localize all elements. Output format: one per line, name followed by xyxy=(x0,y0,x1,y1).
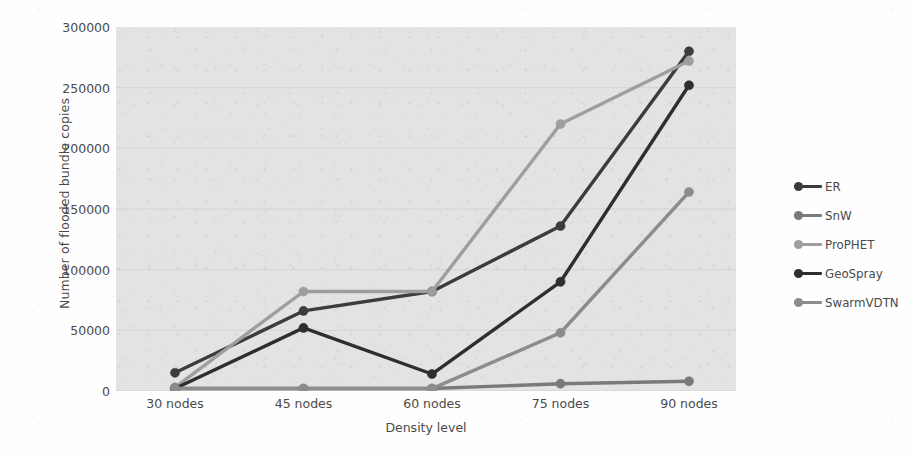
data-point xyxy=(170,384,179,391)
legend-label: GeoSpray xyxy=(825,267,883,281)
x-axis-tick-label: 30 nodes xyxy=(146,396,204,411)
x-axis-title: Density level xyxy=(116,420,736,435)
legend-marker-icon xyxy=(794,210,822,222)
data-point xyxy=(427,369,436,378)
legend-dot-icon xyxy=(794,240,803,249)
data-point xyxy=(556,328,565,337)
data-point xyxy=(556,379,565,388)
x-axis-tick-label: 45 nodes xyxy=(275,396,333,411)
series-line xyxy=(175,61,689,387)
legend-label: ER xyxy=(825,180,841,194)
data-point xyxy=(556,221,565,230)
data-point xyxy=(299,306,308,315)
x-axis-tick-labels: 30 nodes45 nodes60 nodes75 nodes90 nodes xyxy=(116,396,736,416)
x-axis-tick-label: 60 nodes xyxy=(403,396,461,411)
plot-svg xyxy=(116,27,736,391)
data-point xyxy=(299,384,308,391)
chart-legend: ERSnWProPHETGeoSpraySwarmVDTN xyxy=(794,172,910,317)
legend-dot-icon xyxy=(794,298,803,307)
series-line xyxy=(175,85,689,388)
plot-area xyxy=(116,27,736,391)
x-axis-tick-label: 90 nodes xyxy=(660,396,718,411)
legend-label: SnW xyxy=(825,209,852,223)
legend-entry-swarmvdtn[interactable]: SwarmVDTN xyxy=(794,288,910,317)
chart-page: Number of flooded bundle copies 05000010… xyxy=(0,0,912,460)
legend-entry-er[interactable]: ER xyxy=(794,172,910,201)
legend-entry-prophet[interactable]: ProPHET xyxy=(794,230,910,259)
legend-dot-icon xyxy=(794,211,803,220)
series-prophet xyxy=(170,56,693,391)
data-point xyxy=(684,377,693,386)
legend-entry-snw[interactable]: SnW xyxy=(794,201,910,230)
series-geospray xyxy=(170,81,693,391)
data-point xyxy=(684,187,693,196)
legend-label: ProPHET xyxy=(825,238,874,252)
data-point xyxy=(556,119,565,128)
legend-dot-icon xyxy=(794,182,803,191)
line-chart-figure: Number of flooded bundle copies 05000010… xyxy=(0,0,912,460)
legend-marker-icon xyxy=(794,239,822,251)
data-point xyxy=(556,277,565,286)
data-point xyxy=(427,384,436,391)
gridlines xyxy=(116,88,736,391)
legend-entry-geospray[interactable]: GeoSpray xyxy=(794,259,910,288)
legend-dot-icon xyxy=(794,269,803,278)
legend-label: SwarmVDTN xyxy=(825,296,899,310)
x-axis-tick-label: 75 nodes xyxy=(532,396,590,411)
data-point xyxy=(684,47,693,56)
data-point xyxy=(170,368,179,377)
y-axis-tick-label: 100000 xyxy=(28,262,110,277)
legend-marker-icon xyxy=(794,297,822,309)
data-point xyxy=(684,56,693,65)
data-point xyxy=(684,81,693,90)
data-point xyxy=(427,287,436,296)
data-point xyxy=(299,323,308,332)
legend-marker-icon xyxy=(794,268,822,280)
legend-marker-icon xyxy=(794,181,822,193)
y-axis-tick-label: 0 xyxy=(28,384,110,399)
y-axis-tick-label: 50000 xyxy=(28,323,110,338)
data-point xyxy=(299,287,308,296)
y-axis-tick-labels: 050000100000150000200000250000300000 xyxy=(28,24,110,394)
y-axis-tick-label: 150000 xyxy=(28,202,110,217)
y-axis-tick-label: 300000 xyxy=(28,20,110,35)
y-axis-tick-label: 200000 xyxy=(28,141,110,156)
y-axis-tick-label: 250000 xyxy=(28,80,110,95)
